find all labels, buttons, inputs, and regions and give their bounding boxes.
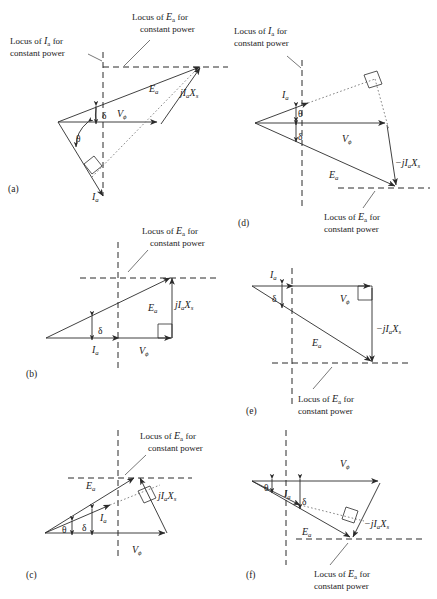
label-ea: Ea [311,337,322,349]
label-ia: Ia [283,488,291,500]
locus-ea-note-line1: Locus of Ea for [140,430,196,442]
right-angle-marker [358,286,372,300]
locus-ea-note-line1: Locus of Ea for [142,225,198,237]
locus-ea-note-line1: Locus of Ea for [314,568,370,580]
locus-ia-leader [287,56,301,68]
locus-ea-leader [330,543,348,565]
vector-ea [58,67,200,122]
label-vphi: Vϕ [340,293,350,305]
panel-letter-f: (f) [246,570,256,580]
locus-ia-note-line2: constant power [10,48,65,58]
label-vphi: Vϕ [117,108,127,120]
panel-e: Ia Vϕ Ea −jIaXs δ Locus of Ea for consta… [240,250,437,430]
label-neg-jiaxs: −jIaXs [395,157,420,169]
label-theta: θ [298,109,303,119]
label-ia: Ia [91,344,99,356]
locus-ea-note-line1: Locus of Ea for [132,11,188,23]
label-neg-jiaxs: −jIaXs [376,323,401,335]
label-ea: Ea [301,526,312,538]
locus-ea-note-line2: constant power [140,24,195,34]
locus-ia-note-line1: Locus of Ia for [234,25,287,37]
label-neg-jiaxs: −jIaXs [364,518,389,530]
vector-ea [255,123,395,186]
label-theta: θ [62,525,67,535]
label-ia: Ia [91,191,99,203]
label-jiaxs: jIaXs [156,490,177,502]
panel-c: Locus of Ea for constant power Ea jIaXs … [20,405,235,585]
locus-ia-leader [88,54,102,61]
right-angle-marker [84,156,102,174]
label-delta: δ [102,111,107,121]
panel-b: Locus of Ea for constant power Ea jIaXs … [20,212,235,392]
label-theta: θ [264,483,269,493]
panel-d: Locus of Ia for constant power Locus of … [230,18,437,248]
right-angle-marker [158,324,172,338]
construction-dotted-line [300,505,364,521]
panel-letter-c: (c) [26,570,37,580]
label-vphi: Vϕ [342,133,352,145]
locus-ea-note-line1: Locus of Ea for [298,393,354,405]
label-delta: δ [98,326,103,336]
label-theta: θ [76,134,81,144]
panel-letter-b: (b) [26,369,37,379]
vector-ea [252,286,371,361]
panel-letter-a: (a) [8,184,19,194]
label-ia: Ia [281,89,289,101]
locus-ea-note-line2: constant power [314,581,369,591]
right-angle-marker [342,507,358,523]
construction-dotted-line-1 [308,79,375,103]
vector-jiaxs [140,478,167,533]
locus-ea-leader [363,191,375,208]
label-ia: Ia [99,512,107,524]
label-delta: δ [82,523,87,533]
panel-letter-d: (d) [238,218,249,228]
label-ea: Ea [147,302,158,314]
locus-ea-leader [313,367,332,389]
locus-ea-leader [125,455,146,475]
label-ia: Ia [269,269,277,281]
vector-neg-jiaxs [387,125,396,185]
label-vphi: Vϕ [340,458,350,470]
label-ea: Ea [85,480,96,492]
right-angle-marker [138,486,156,503]
label-vphi: Vϕ [139,345,149,357]
label-jiaxs: jIaXs [178,87,199,99]
label-delta: δ [298,132,303,142]
construction-dotted-line-2 [375,79,389,130]
panel-f: Vϕ Ia Ea −jIaXs θ δ Locus of Ea for cons… [240,405,437,590]
figure-root: Locus of Ea for constant power Locus of … [0,0,437,599]
vector-ia [252,481,300,505]
panel-a: Locus of Ea for constant power Locus of … [0,0,230,205]
label-delta: δ [302,497,307,507]
label-jiaxs: jIaXs [173,299,194,311]
label-ea: Ea [328,169,339,181]
locus-ea-note-line2: constant power [324,224,379,234]
locus-ia-note-line1: Locus of Ia for [10,35,63,47]
locus-ea-leader [124,40,150,66]
locus-ea-note-line2: constant power [148,443,203,453]
locus-ea-leader [128,250,148,272]
locus-ia-note-line2: constant power [234,38,289,48]
label-delta: δ [272,294,277,304]
label-vphi: Vϕ [132,544,142,556]
locus-ea-note-line1: Locus of Ea for [324,211,380,223]
locus-ea-note-line2: constant power [150,238,205,248]
label-ea: Ea [148,83,159,95]
